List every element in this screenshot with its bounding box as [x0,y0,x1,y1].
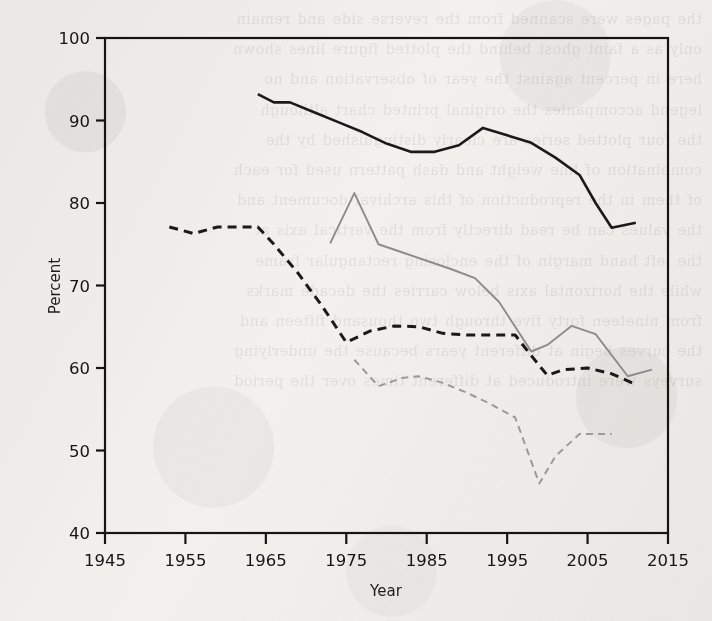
line-chart-plot: 405060708090100 194519551965197519851995… [0,0,712,621]
y-tick-label: 60 [69,359,90,378]
x-tick-label: 1965 [245,551,287,570]
x-tick-label: 1985 [406,551,448,570]
series-solid-gray [330,193,652,376]
x-tick-label: 2015 [647,551,689,570]
x-tick-label: 1995 [486,551,528,570]
y-tick-label: 100 [59,29,91,48]
x-tick-label: 1945 [84,551,126,570]
chart-figure: the pages were scanned from the reverse … [0,0,712,621]
series-dashed-gray [354,360,611,484]
data-series-group [169,94,652,483]
y-tick-label: 50 [69,442,90,461]
y-tick-label: 70 [69,277,90,296]
series-dashed-black [169,227,635,385]
series-solid-black [258,94,636,228]
y-tick-label: 90 [69,112,90,131]
x-axis-ticks [105,533,668,544]
y-tick-label: 40 [69,524,90,543]
x-tick-label: 1975 [325,551,367,570]
y-axis-ticks [96,38,105,533]
plot-frame [105,38,668,533]
x-tick-label: 1955 [164,551,206,570]
x-axis-tick-labels: 19451955196519751985199520052015 [84,551,689,570]
y-tick-label: 80 [69,194,90,213]
x-tick-label: 2005 [567,551,609,570]
x-axis-title: Year [369,582,403,600]
y-axis-title: Percent [46,258,64,315]
